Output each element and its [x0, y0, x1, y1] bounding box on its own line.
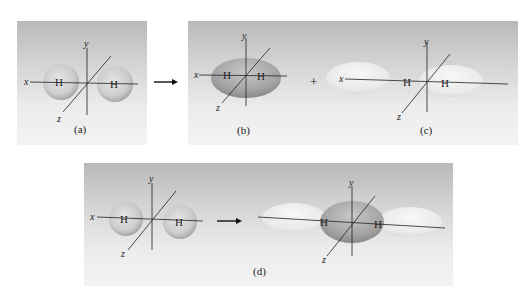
y-axis-label: y: [348, 177, 354, 188]
atom-label-h1: H: [55, 76, 63, 88]
z-axis-label: z: [215, 102, 220, 113]
plus-sign: +: [310, 74, 317, 89]
z-axis-label: z: [120, 248, 125, 259]
z-axis-label: z: [396, 111, 401, 122]
panel-d: x y z H H y z H H (d): [89, 173, 445, 278]
orbital-diagram: x y z H H (a) x y z H H (b) + x y z H H …: [0, 0, 523, 294]
caption-c: (c): [420, 124, 433, 137]
atom-label-h3: H: [320, 216, 328, 228]
caption-d: (d): [253, 265, 266, 278]
atom-label-h1: H: [223, 69, 231, 81]
x-axis-label: x: [23, 76, 29, 87]
y-axis-label: y: [241, 30, 247, 41]
x-axis-label: x: [338, 73, 344, 84]
antibonding-lobe-right: [419, 65, 483, 97]
panel-a: x y z H H (a): [23, 38, 138, 136]
panel-b: x y z H H (b): [193, 30, 287, 137]
panel-c: x y z H H (c): [326, 36, 508, 137]
z-axis-label: z: [56, 113, 61, 124]
arrow-right-icon: [217, 218, 242, 224]
z-axis-label: z: [321, 254, 326, 265]
arrow-right-icon: [154, 79, 178, 85]
caption-b: (b): [237, 124, 250, 137]
y-axis-label: y: [148, 173, 154, 184]
antibonding-lobe-left: [326, 62, 390, 94]
atom-label-h2: H: [175, 216, 183, 228]
atom-label-h2: H: [257, 70, 265, 82]
caption-a: (a): [74, 123, 87, 136]
y-axis-label: y: [83, 38, 89, 49]
y-axis-label: y: [423, 36, 429, 47]
atom-label-h4: H: [374, 218, 382, 230]
x-axis-label: x: [89, 211, 95, 222]
antibonding-lobe-right: [378, 207, 442, 237]
atom-label-h2: H: [110, 78, 118, 90]
atom-label-h1: H: [120, 213, 128, 225]
atom-label-h1: H: [403, 76, 411, 88]
x-axis-label: x: [193, 69, 199, 80]
atom-label-h2: H: [441, 77, 449, 89]
